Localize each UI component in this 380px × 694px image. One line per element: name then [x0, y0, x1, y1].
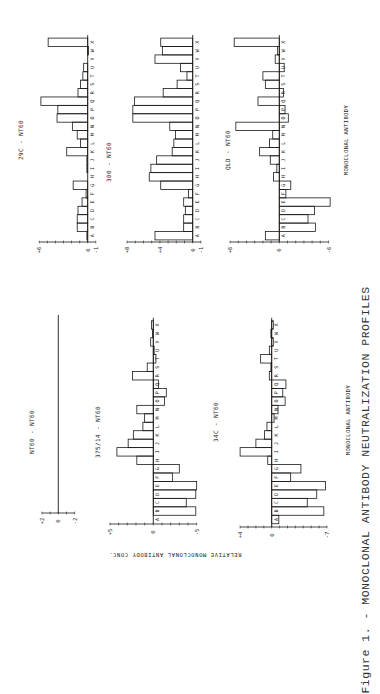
- category-label: M: [194, 133, 200, 136]
- bar: [258, 97, 279, 105]
- bar: [267, 422, 272, 430]
- tick-label: +6: [227, 247, 233, 254]
- tick-label: 0: [55, 519, 61, 522]
- category-label: Q: [194, 100, 200, 103]
- tick-label: +4: [237, 531, 243, 538]
- category-label: K: [280, 150, 286, 153]
- category-label: X: [194, 41, 200, 44]
- bar: [261, 355, 272, 363]
- category-label: C: [194, 217, 200, 220]
- bar: [151, 338, 154, 346]
- tick-label: 0: [269, 533, 275, 536]
- bar: [155, 231, 193, 239]
- category-label: C: [273, 501, 279, 504]
- chart-29c: +60-1ABCDEFGHIJKLMNOPQRSTUVWX: [36, 35, 98, 253]
- bar: [272, 507, 324, 515]
- chart-title-375-14: 375/14 - NT60: [94, 406, 101, 458]
- bar: [78, 89, 88, 97]
- category-label: P: [89, 108, 95, 111]
- category-label: U: [154, 349, 160, 352]
- category-label: D: [89, 209, 95, 212]
- bar: [67, 147, 88, 155]
- category-label: D: [280, 209, 286, 212]
- category-label: A: [280, 234, 286, 237]
- category-label: M: [154, 417, 160, 420]
- category-label: C: [154, 501, 160, 504]
- category-label: H: [273, 459, 279, 462]
- bar: [268, 456, 272, 464]
- category-label: A: [89, 234, 95, 237]
- bar: [161, 181, 193, 189]
- x-axis-label-bottom: MONOCLONAL ANTIBODY: [345, 385, 351, 456]
- category-label: R: [89, 90, 95, 94]
- category-label: G: [89, 184, 95, 187]
- category-label: K: [273, 433, 279, 436]
- category-label: G: [273, 467, 279, 470]
- x-axis-label-top: MONOCLONAL ANTIBODY: [343, 105, 349, 176]
- category-label: R: [154, 373, 160, 377]
- category-label: X: [273, 323, 279, 326]
- category-label: K: [194, 150, 200, 153]
- tick-label: +6: [36, 247, 42, 254]
- category-label: I: [154, 450, 160, 453]
- chart-34c: +40-7ABCDEFGHIJKLMNOPQRSTUVWX: [237, 318, 330, 539]
- category-label: S: [280, 83, 286, 86]
- bar: [269, 372, 271, 380]
- category-label: L: [89, 142, 95, 145]
- category-label: G: [194, 184, 200, 187]
- bar: [269, 139, 279, 147]
- category-label: T: [273, 357, 279, 360]
- category-label: D: [194, 209, 200, 212]
- category-label: B: [154, 510, 160, 513]
- category-label: R: [273, 373, 279, 377]
- tick-label: +5: [107, 529, 113, 536]
- category-label: O: [154, 400, 160, 403]
- bar: [57, 114, 88, 122]
- tick-label: -5: [194, 529, 200, 536]
- chart-title-qld: QLD - NT60: [224, 130, 231, 170]
- category-label: F: [89, 192, 95, 195]
- bar: [265, 80, 279, 88]
- bar: [163, 89, 193, 97]
- bar: [170, 122, 193, 130]
- category-label: M: [273, 417, 279, 420]
- bar: [48, 38, 88, 46]
- category-label: W: [89, 48, 95, 52]
- bar: [137, 456, 153, 464]
- category-label: H: [154, 459, 160, 462]
- category-label: F: [154, 476, 160, 479]
- category-label: B: [194, 226, 200, 229]
- chart-qld: +60-6ABCDEFGHIJKLMNOPQRSTUVWX: [227, 35, 331, 253]
- bar: [161, 38, 193, 46]
- category-label: T: [89, 74, 95, 77]
- category-label: F: [273, 476, 279, 479]
- category-label: L: [273, 425, 279, 428]
- category-label: E: [154, 484, 160, 487]
- bar: [189, 189, 193, 197]
- category-label: O: [273, 400, 279, 403]
- category-label: X: [154, 323, 160, 326]
- category-label: S: [194, 83, 200, 86]
- category-label: P: [194, 108, 200, 111]
- category-label: L: [194, 142, 200, 145]
- category-label: F: [194, 192, 200, 195]
- category-label: I: [280, 167, 286, 170]
- y-axis-label: RELATIVE MONOCLONAL ANTIBODY CONC.: [109, 552, 242, 558]
- category-label: B: [280, 226, 286, 229]
- category-label: A: [194, 234, 200, 237]
- category-label: L: [154, 425, 160, 428]
- bar: [77, 215, 87, 223]
- category-label: M: [280, 133, 286, 136]
- bar: [184, 215, 193, 223]
- bar: [270, 156, 279, 164]
- category-label: O: [194, 116, 200, 119]
- category-label: W: [194, 48, 200, 52]
- figure-caption: Figure 1. - MONOCLONAL ANTIBODY NEUTRALI…: [359, 286, 372, 693]
- chart-title-29c: 29C - NT60: [17, 120, 24, 160]
- bar: [234, 38, 279, 46]
- chart-title-nt60: NT60 - NT60: [28, 410, 35, 454]
- bar: [133, 114, 193, 122]
- bar: [172, 147, 193, 155]
- category-label: W: [154, 331, 160, 335]
- category-label: E: [273, 484, 279, 487]
